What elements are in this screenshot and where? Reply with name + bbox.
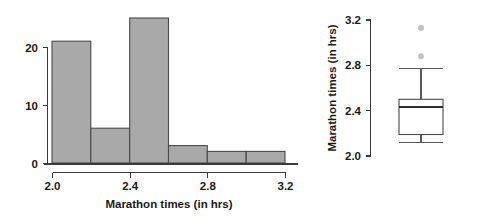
histogram-ytick-label: 20 [25, 42, 38, 54]
histogram-ytick-label: 10 [25, 100, 38, 112]
histogram-x-axis-title: Marathon times (in hrs) [105, 198, 232, 210]
histogram-y-axis: 0 10 20 [25, 42, 47, 170]
histogram-bar [169, 146, 208, 163]
histogram-ytick-label: 0 [32, 158, 38, 170]
histogram-xtick-label: 2.4 [122, 180, 139, 192]
histogram-svg: 0 10 20 2.0 2.4 2.8 3.2 Marathon times (… [0, 0, 330, 217]
histogram-bar [91, 128, 130, 163]
histogram-bar [207, 151, 246, 163]
boxplot-y-axis-title: Marathon times (in hrs) [326, 24, 338, 151]
histogram-xtick-label: 2.8 [200, 180, 217, 192]
boxplot-outlier-point [418, 25, 423, 30]
boxplot-svg: 2.0 2.4 2.8 3.2 [320, 0, 479, 217]
boxplot-ytick-label: 2.4 [345, 105, 362, 117]
boxplot-ytick-label: 3.2 [345, 14, 361, 26]
boxplot-outlier-point [418, 54, 423, 59]
histogram-panel: 0 10 20 2.0 2.4 2.8 3.2 Marathon times (… [0, 0, 330, 217]
histogram-bar [246, 151, 285, 163]
histogram-x-axis: 2.0 2.4 2.8 3.2 [45, 173, 294, 193]
boxplot-y-axis: 2.0 2.4 2.8 3.2 [345, 14, 371, 162]
boxplot-ytick-label: 2.0 [345, 150, 361, 162]
figure-container: 0 10 20 2.0 2.4 2.8 3.2 Marathon times (… [0, 0, 479, 217]
histogram-bar [130, 18, 169, 163]
histogram-xtick-label: 3.2 [278, 180, 294, 192]
boxplot-ytick-label: 2.8 [345, 59, 362, 71]
histogram-bar [52, 41, 91, 163]
boxplot-panel: 2.0 2.4 2.8 3.2 [320, 0, 479, 217]
histogram-xtick-label: 2.0 [45, 180, 61, 192]
boxplot-outliers [418, 25, 423, 59]
histogram-bars [52, 18, 285, 163]
boxplot-box [399, 99, 443, 134]
